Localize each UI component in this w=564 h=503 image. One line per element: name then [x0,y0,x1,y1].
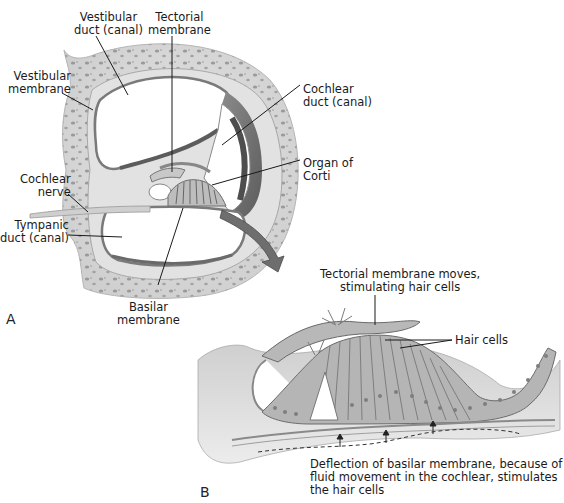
label-vestibular-membrane: Vestibular membrane [8,70,71,96]
label-tectorial-membrane: Tectorial membrane [148,11,211,37]
label-basilar-membrane: Basilar membrane [117,301,180,327]
label-cochlear-nerve: Cochlear nerve [20,173,71,199]
label-hair-cells: Hair cells [455,334,508,347]
label-deflection: Deflection of basilar membrane, because … [310,458,562,497]
label-cochlear-duct: Cochlear duct (canal) [303,83,372,109]
organ-of-corti-b [198,308,560,463]
cochlea-illustration [0,0,564,503]
label-vestibular-duct: Vestibular duct (canal) [74,11,143,37]
label-organ-of-corti: Organ of Corti [303,157,353,183]
panel-letter-b: B [200,484,210,500]
cochlea-diagram: Vestibular duct (canal) Tectorial membra… [0,0,564,503]
label-tympanic-duct: Tympanic duct (canal) [0,219,69,245]
label-tectorial-moves: Tectorial membrane moves, stimulating ha… [320,268,480,294]
panel-letter-a: A [6,311,16,327]
